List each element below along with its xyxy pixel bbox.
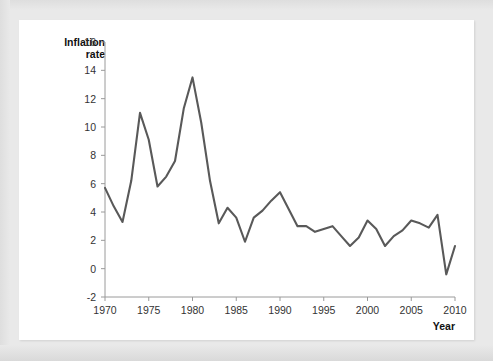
y-tick-label: 16 <box>84 36 96 48</box>
page-edge-shade-left <box>0 0 10 361</box>
y-tick-label: 6 <box>90 178 96 190</box>
y-tick-label: -2 <box>87 291 96 303</box>
x-tick-label: 2000 <box>356 304 380 316</box>
x-tick-label: 1990 <box>268 304 292 316</box>
x-axis-ticks: 197019751980198519901995200020052010 <box>93 297 467 316</box>
y-tick-label: 10 <box>84 121 96 133</box>
y-tick-label: 12 <box>84 93 96 105</box>
x-tick-label: 1980 <box>181 304 205 316</box>
x-tick-label: 1985 <box>225 304 249 316</box>
line-chart: Inflation rate Year -20246810121416 1970… <box>19 20 474 340</box>
x-axis-label: Year <box>433 320 455 332</box>
x-tick-label: 2010 <box>443 304 467 316</box>
y-axis-label-line2: rate <box>86 48 105 60</box>
x-tick-label: 1970 <box>93 304 117 316</box>
y-tick-label: 14 <box>84 64 96 76</box>
screenshot-root: Inflation rate Year -20246810121416 1970… <box>0 0 493 361</box>
y-tick-label: 0 <box>90 263 96 275</box>
y-tick-label: 2 <box>90 234 96 246</box>
y-axis-ticks: -20246810121416 <box>84 36 105 303</box>
x-tick-label: 2005 <box>400 304 424 316</box>
y-tick-label: 8 <box>90 149 96 161</box>
page-edge-shade-top <box>0 0 493 10</box>
chart-panel: Inflation rate Year -20246810121416 1970… <box>19 20 474 340</box>
page-edge-shade-bottom <box>0 345 493 361</box>
inflation-rate-line <box>105 77 455 274</box>
x-tick-label: 1975 <box>137 304 161 316</box>
x-tick-label: 1995 <box>312 304 336 316</box>
y-tick-label: 4 <box>90 206 96 218</box>
